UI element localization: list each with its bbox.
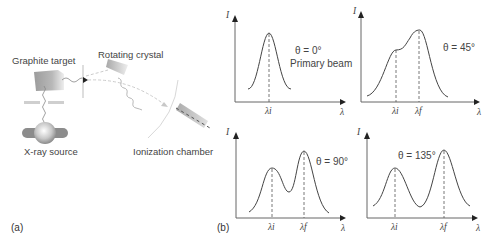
- plot-3-tick-li: λi: [391, 222, 398, 232]
- plot-2-angle: θ = 90°: [316, 156, 348, 167]
- plot-0-angle: θ = 0°: [295, 45, 322, 56]
- plot-1-tick-lf: λf: [415, 106, 422, 116]
- plot-3-xlabel: λ: [476, 223, 480, 233]
- plot-3-tick-lf: λf: [440, 222, 447, 232]
- plot-1-ylabel: I: [353, 6, 356, 16]
- plot-2-tick-li: λi: [268, 222, 275, 232]
- plot-3-angle: θ = 135°: [398, 150, 436, 161]
- plot-1-curve: [367, 30, 448, 97]
- plot-2-xlabel: λ: [341, 223, 345, 233]
- plot-0-xlabel: λ: [340, 107, 344, 117]
- plot-0-curve: [248, 33, 291, 89]
- plot-0-ylabel: I: [226, 10, 229, 20]
- plot-3-ylabel: I: [357, 127, 360, 137]
- plot-0-caption: Primary beam: [290, 58, 352, 69]
- plot-1-xlabel: λ: [477, 107, 481, 117]
- plot-1-angle: θ = 45°: [443, 42, 475, 53]
- plot-2-ylabel: I: [226, 127, 229, 137]
- plot-0-tick-li: λi: [265, 106, 272, 116]
- plot-2-tick-lf: λf: [300, 222, 307, 232]
- plot-1-tick-li: λi: [392, 106, 399, 116]
- intensity-plots: [0, 0, 493, 250]
- plot-2-axes: [236, 139, 340, 218]
